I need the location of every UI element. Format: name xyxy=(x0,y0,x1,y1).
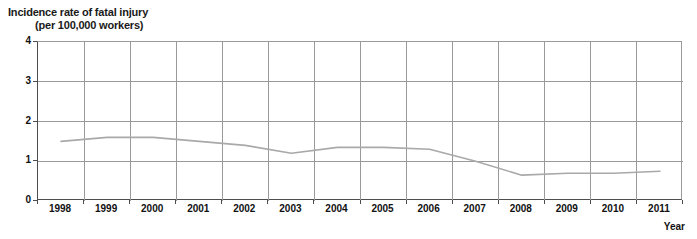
chart-canvas xyxy=(38,42,683,201)
x-axis-tick-mark xyxy=(682,200,683,204)
y-axis-tick-row: 0 xyxy=(0,200,37,201)
y-axis-tick-row: 2 xyxy=(0,121,37,122)
x-axis-tick-label: 2006 xyxy=(417,203,439,214)
y-axis-tick-row: 1 xyxy=(0,160,37,161)
plot-area xyxy=(37,41,682,200)
x-axis-tick-label: 2010 xyxy=(602,203,624,214)
y-axis-tick-label: 1 xyxy=(5,154,31,165)
x-axis-tick-label: 2009 xyxy=(556,203,578,214)
x-axis-tick-label: 1999 xyxy=(95,203,117,214)
y-axis-tick-row: 3 xyxy=(0,81,37,82)
x-axis-title: Year xyxy=(664,221,685,232)
x-axis-tick-label: 1998 xyxy=(49,203,71,214)
y-axis-tick-row: 4 xyxy=(0,41,37,42)
fatal-injury-rate-line-chart: Incidence rate of fatal injury (per 100,… xyxy=(0,0,697,239)
x-axis-tick-label: 2005 xyxy=(371,203,393,214)
x-axis-tick-label: 2004 xyxy=(325,203,347,214)
x-axis-tick-label: 2003 xyxy=(279,203,301,214)
x-axis-tick-label: 2001 xyxy=(187,203,209,214)
x-axis-tick-label: 2000 xyxy=(141,203,163,214)
y-axis-tick-label: 3 xyxy=(5,75,31,86)
x-axis-tick-label: 2007 xyxy=(464,203,486,214)
x-axis-tick-label: 2002 xyxy=(233,203,255,214)
y-axis-tick-label: 0 xyxy=(5,194,31,205)
y-axis-tick-label: 2 xyxy=(5,115,31,126)
x-axis-labels: 1998199920002001200220032004200520062007… xyxy=(37,203,682,219)
x-axis-tick-label: 2008 xyxy=(510,203,532,214)
y-axis: 01234 xyxy=(0,0,37,159)
y-axis-tick-label: 4 xyxy=(5,35,31,46)
x-axis-tick-label: 2011 xyxy=(648,203,670,214)
